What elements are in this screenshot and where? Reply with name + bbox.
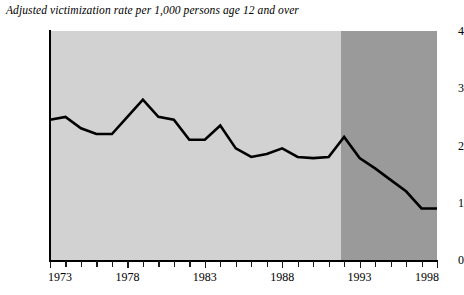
x-axis-tick-label: 1988: [270, 270, 294, 285]
x-axis-tick: [422, 261, 423, 267]
x-axis-tick: [205, 261, 206, 268]
x-axis-tick: [344, 261, 345, 267]
x-axis-tick: [65, 261, 66, 267]
x-axis-tick-label: 1978: [115, 270, 139, 285]
x-axis-tick: [112, 261, 113, 267]
y-axis-tick-label: 4: [420, 25, 464, 37]
x-axis-tick: [220, 261, 221, 267]
x-axis-tick: [189, 261, 190, 267]
x-axis-tick-label: 1983: [193, 270, 217, 285]
series-plot: [50, 31, 437, 260]
x-axis-tick: [174, 261, 175, 267]
y-axis-line: [49, 30, 51, 261]
y-axis-tick-label: 0: [420, 254, 464, 266]
x-axis-line: [49, 260, 438, 262]
x-axis-tick: [236, 261, 237, 267]
y-axis-tick-label: 1: [420, 197, 464, 209]
chart-title: Adjusted victimization rate per 1,000 pe…: [6, 4, 299, 16]
x-axis-tick-label: 1998: [415, 270, 439, 285]
x-axis-tick: [127, 261, 128, 268]
x-axis-tick: [251, 261, 252, 267]
x-axis-tick: [50, 261, 51, 268]
plot-area: [50, 31, 437, 260]
x-axis-tick: [81, 261, 82, 267]
x-axis-tick: [375, 261, 376, 267]
x-axis-tick-label: 1993: [348, 270, 372, 285]
x-axis-tick-label: 1973: [48, 270, 72, 285]
chart-figure: Adjusted victimization rate per 1,000 pe…: [0, 0, 464, 295]
series-line-victimization-rate: [50, 100, 437, 209]
x-axis-tick: [360, 261, 361, 268]
x-axis-tick: [282, 261, 283, 268]
x-axis-tick: [406, 261, 407, 267]
x-axis-tick: [267, 261, 268, 267]
x-axis-tick: [313, 261, 314, 267]
x-axis-tick: [96, 261, 97, 267]
x-axis-tick: [391, 261, 392, 267]
y-axis-tick-label: 3: [420, 82, 464, 94]
x-axis-tick: [298, 261, 299, 267]
x-axis-tick: [437, 261, 438, 268]
x-axis-tick: [329, 261, 330, 267]
y-axis-tick-label: 2: [420, 140, 464, 152]
x-axis-tick: [143, 261, 144, 267]
x-axis-tick: [158, 261, 159, 267]
